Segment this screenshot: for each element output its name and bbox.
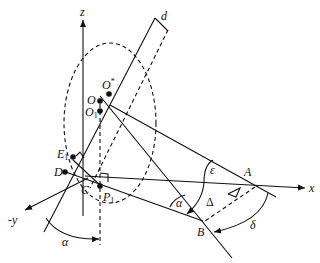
delta-lower-arc xyxy=(214,193,268,232)
label-C: C xyxy=(81,184,89,196)
z-axis-label: z xyxy=(80,6,85,18)
label-O-star: O* xyxy=(102,78,115,91)
x-axis xyxy=(85,176,305,188)
label-O1: O1 xyxy=(85,106,98,120)
label-D: D xyxy=(54,166,63,178)
point-E1 xyxy=(70,154,76,160)
point-O1 xyxy=(97,108,103,114)
d-dimension-label: d xyxy=(161,10,167,22)
label-P1: P1 xyxy=(103,191,114,205)
epsilon-label: ε xyxy=(210,164,215,176)
line-E1-to-P1 xyxy=(73,160,100,185)
alpha-right-label: α xyxy=(176,197,182,209)
alpha-bottom-label: α xyxy=(62,236,68,248)
x-axis-label: x xyxy=(309,182,314,194)
point-O-star xyxy=(106,91,112,97)
point-D xyxy=(62,169,68,175)
line-O-to-B xyxy=(100,96,232,258)
label-A: A xyxy=(244,166,251,178)
neg-y-axis-label: -y xyxy=(8,214,17,226)
right-angle-marker-A xyxy=(228,188,240,197)
point-O xyxy=(97,98,103,104)
delta-lower-label: δ xyxy=(250,219,256,231)
line-O-to-A xyxy=(110,105,276,197)
delta-upper-label: Δ xyxy=(206,196,214,208)
point-P1 xyxy=(97,183,103,189)
neg-y-axis xyxy=(25,178,88,210)
label-E1: E1 xyxy=(57,148,68,162)
alpha-arc-bottom xyxy=(46,218,99,239)
diagram-canvas: z x -y d O* O O1 E1 D C P1 A B α α ε Δ δ xyxy=(0,0,320,263)
label-B: B xyxy=(197,226,204,238)
diagram-svg xyxy=(0,0,320,263)
delta-upper-arc xyxy=(187,182,204,214)
